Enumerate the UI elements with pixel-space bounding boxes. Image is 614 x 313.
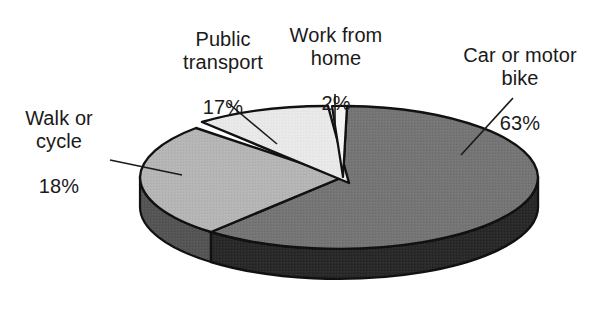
slice-label-public-transport-name: Public transport <box>158 28 288 73</box>
slice-label-car-or-motor-bike: Car or motor bike 63% <box>440 22 600 156</box>
slice-label-public-transport: Public transport 17% <box>158 6 288 140</box>
slice-label-work-from-home-value: 2% <box>274 92 398 114</box>
slice-label-work-from-home-name: Work from home <box>274 24 398 69</box>
pie-chart: Public transport 17% Work from home 2% C… <box>0 0 614 313</box>
slice-label-walk-or-cycle-value: 18% <box>4 175 114 197</box>
slice-label-public-transport-value: 17% <box>158 96 288 118</box>
slice-label-walk-or-cycle-name: Walk or cycle <box>4 107 114 152</box>
slice-label-car-or-motor-bike-name: Car or motor bike <box>440 44 600 89</box>
slice-label-work-from-home: Work from home 2% <box>274 2 398 136</box>
slice-label-walk-or-cycle: Walk or cycle 18% <box>4 85 114 219</box>
slice-label-car-or-motor-bike-value: 63% <box>440 112 600 134</box>
